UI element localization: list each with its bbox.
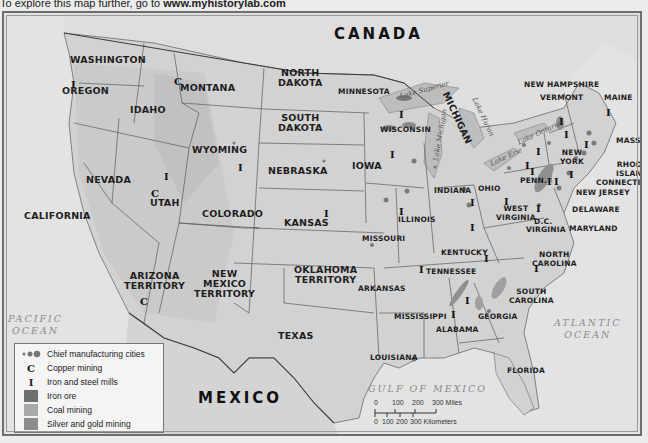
caption-link[interactable]: www.myhistorylab.com — [163, 0, 285, 9]
caption-text: To explore this map further, go to — [0, 0, 163, 9]
map-inner-border — [6, 15, 638, 432]
caption: To explore this map further, go to www.m… — [0, 0, 286, 9]
map-frame: CANADA MEXICO PACIFICOCEAN ATLANTICOCEAN… — [2, 11, 642, 436]
